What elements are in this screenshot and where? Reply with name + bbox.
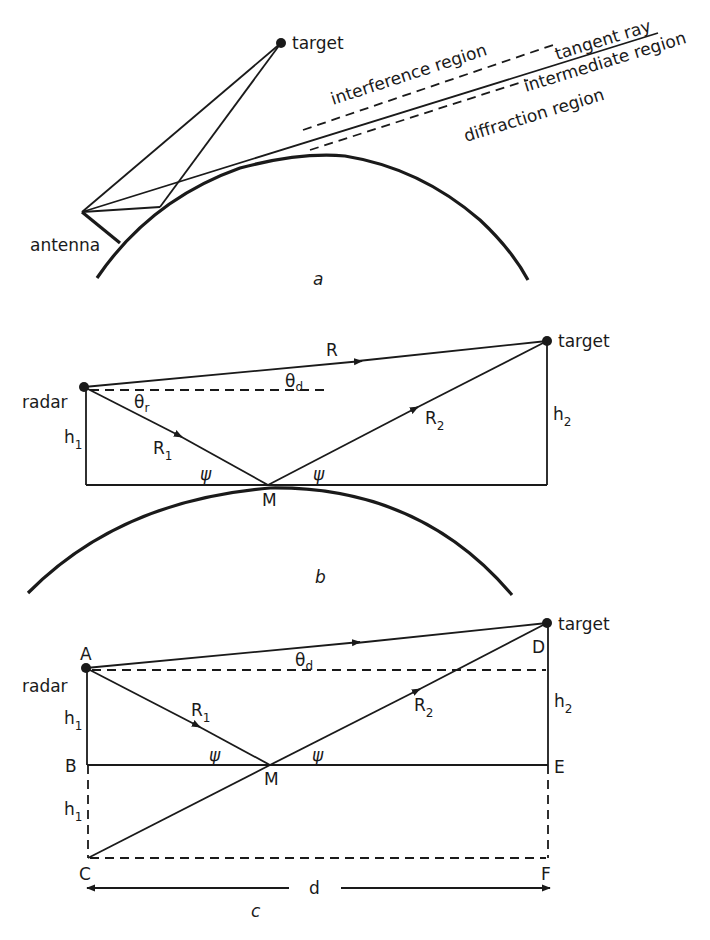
point-a-label: A: [80, 644, 92, 664]
target-label: target: [558, 331, 610, 351]
ray-r1: [84, 387, 182, 437]
r1-label: R1: [191, 700, 210, 725]
theta-d-label: θd: [285, 371, 303, 394]
h2-label: h2: [554, 691, 572, 716]
r-label: R: [326, 340, 338, 360]
ray-r2: [270, 689, 420, 765]
radar-label: radar: [22, 676, 68, 696]
panel-a-caption: a: [313, 269, 323, 289]
target-label: target: [558, 614, 610, 634]
antenna-label: antenna: [30, 235, 100, 255]
tangent-ray: [82, 33, 658, 212]
m-label: M: [262, 490, 277, 510]
direct-ray-r: [84, 361, 362, 387]
point-e-label: E: [554, 757, 565, 777]
d-label: d: [309, 878, 320, 898]
psi-right-label: ψ: [312, 745, 324, 765]
target-label: target: [292, 33, 344, 53]
ray-r2-tail: [414, 341, 547, 409]
r2-label: R2: [425, 408, 444, 433]
h2-label: h2: [553, 404, 571, 429]
ray-r2-tail: [416, 623, 547, 691]
direct-ray: [82, 43, 281, 212]
radar-multipath-figure: target antenna interference region tange…: [0, 0, 710, 940]
h1-top-label: h1: [64, 708, 82, 733]
m-label: M: [264, 769, 279, 789]
panel-a: target antenna interference region tange…: [30, 16, 688, 289]
r2-label: R2: [414, 695, 433, 720]
psi-left-label: ψ: [209, 745, 221, 765]
panel-b: target radar R θd θr h1 h2 R1 R2 ψ ψ M b: [22, 331, 610, 595]
ray-r1: [86, 668, 200, 727]
point-b-label: B: [65, 756, 77, 776]
theta-r-label: θr: [134, 392, 149, 415]
psi-left-label: ψ: [200, 464, 212, 484]
r1-label: R1: [153, 438, 172, 463]
ray-r1-tail: [178, 435, 268, 485]
panel-b-caption: b: [315, 567, 326, 587]
h1-label: h1: [64, 427, 82, 452]
h1-bottom-label: h1: [64, 799, 82, 824]
ray-r1-tail: [196, 725, 270, 765]
direct-ray-r-tail: [358, 341, 547, 361]
ray-r2: [268, 407, 418, 485]
panel-c: target A radar B C D E F M θd h1 h1 h2 R…: [22, 614, 610, 921]
radar-label: radar: [22, 392, 68, 412]
earth-surface-arc: [97, 155, 528, 280]
psi-right-label: ψ: [313, 464, 325, 484]
point-c-label: C: [79, 864, 91, 884]
point-d-label: D: [532, 637, 545, 657]
panel-c-caption: c: [251, 901, 261, 921]
theta-d-label: θd: [295, 650, 313, 673]
point-f-label: F: [541, 864, 551, 884]
direct-ray-tail: [356, 623, 547, 643]
direct-ray: [86, 642, 360, 668]
image-ray: [88, 765, 270, 858]
